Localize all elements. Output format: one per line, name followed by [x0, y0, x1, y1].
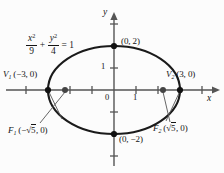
covertex-top-label: (0, 2): [121, 37, 140, 46]
vertex-left-label: V1(−3, 0): [3, 70, 37, 81]
point-focus-right: [160, 87, 166, 93]
y-axis: [110, 12, 117, 166]
equation-y-fraction: y2 4: [48, 33, 59, 57]
focus-left-coords-pre: (−: [18, 125, 26, 135]
equation-y-exponent: 2: [54, 32, 57, 39]
point-vertex-left: [45, 87, 51, 93]
vertex-right-leader: [166, 91, 180, 121]
vertex-right-subscript: 2: [171, 74, 174, 80]
focus-right-subscript: 2: [158, 128, 161, 134]
focus-left-subscript: 1: [13, 130, 16, 136]
equation-plus: +: [40, 40, 45, 50]
ellipse-figure: [0, 0, 224, 173]
equation-y-denominator: 4: [49, 47, 58, 57]
focus-right-label: F2(√5, 0): [153, 124, 188, 135]
equation-x-fraction: x2 9: [26, 33, 37, 57]
y-axis-label: y: [103, 8, 107, 18]
focus-left-coords-post: , 0): [36, 125, 48, 135]
vertex-right-label: V2(3, 0): [166, 70, 195, 81]
equation-x-denominator: 9: [27, 47, 36, 57]
covertex-bottom-label: (0, −2): [119, 135, 143, 144]
point-focus-left: [62, 87, 68, 93]
vertex-left-coords: (−3, 0): [13, 69, 37, 79]
point-vertex-right: [177, 87, 183, 93]
y-tick-label-1: 1: [101, 62, 105, 71]
vertex-left-subscript: 1: [8, 74, 11, 80]
vertex-right-coords: (3, 0): [176, 69, 195, 79]
equation-equals-one: = 1: [62, 40, 74, 50]
vertex-left-leader: [48, 90, 62, 119]
focus-left-label: F1(−√5, 0): [8, 126, 48, 137]
x-axis: [6, 86, 220, 93]
focus-right-coords-post: , 0): [176, 123, 188, 133]
equation-x-exponent: 2: [32, 32, 35, 39]
x-axis-label: x: [207, 94, 211, 104]
x-tick-label-1: 1: [133, 93, 137, 102]
point-covertex-bottom: [111, 131, 117, 137]
point-covertex-top: [111, 43, 117, 49]
ellipse-equation: x2 9 + y2 4 = 1: [26, 33, 74, 57]
origin-label: 0: [105, 93, 109, 102]
